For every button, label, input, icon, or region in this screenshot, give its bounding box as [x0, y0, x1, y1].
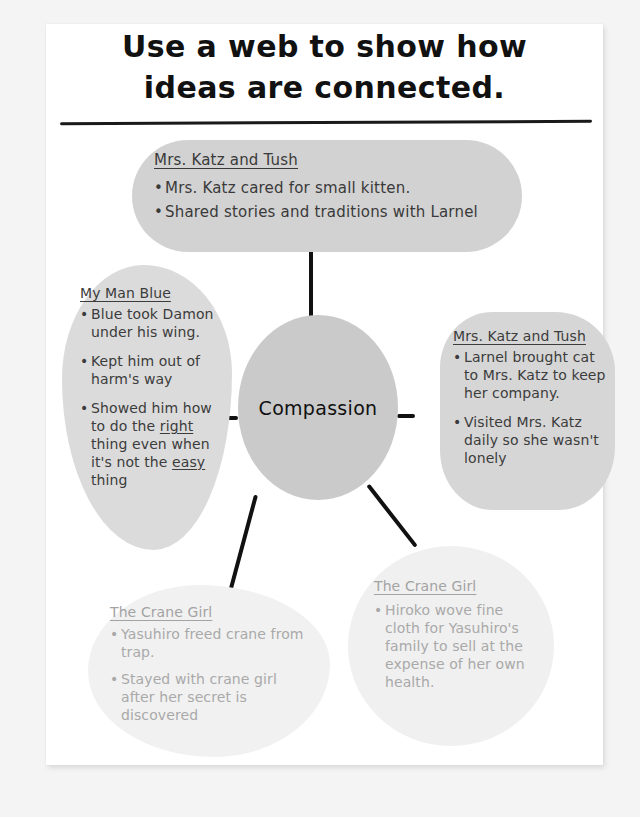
bubble-right-bullet-2: Visited Mrs. Katz daily so she wasn't lo… — [453, 413, 611, 467]
bubble-left-bullet-3-text-a: Showed him how to do the — [91, 400, 212, 434]
title-line-1: Use a web to show how — [46, 26, 603, 67]
bubble-bottom-left-content: The Crane Girl Yasuhiro freed crane from… — [110, 602, 315, 733]
bubble-right-bullet-list: Larnel brought cat to Mrs. Katz to keep … — [453, 348, 611, 467]
page-title: Use a web to show how ideas are connecte… — [46, 26, 603, 108]
bubble-left-bullet-3-text-c: thing — [91, 472, 128, 488]
bubble-bottom-right-bullet-list: Hiroko wove fine cloth for Yasuhiro's fa… — [374, 601, 538, 691]
bubble-top-bullet-2: Shared stories and traditions with Larne… — [154, 200, 512, 224]
center-node-compassion[interactable]: Compassion — [238, 315, 398, 500]
connector-center-to-right — [397, 414, 415, 418]
bubble-left-bullet-1: Blue took Damon under his wing. — [80, 305, 220, 341]
bubble-right-heading: Mrs. Katz and Tush — [453, 328, 586, 344]
bubble-left-bullet-3: Showed him how to do the right thing eve… — [80, 399, 220, 489]
bubble-bottom-right-bullet-1: Hiroko wove fine cloth for Yasuhiro's fa… — [374, 601, 538, 691]
bubble-bottom-left-heading: The Crane Girl — [110, 604, 212, 620]
bubble-left-bullet-list: Blue took Damon under his wing. Kept him… — [80, 305, 220, 489]
bubble-left-bullet-2: Kept him out of harm's way — [80, 352, 220, 388]
bubble-left-content: My Man Blue Blue took Damon under his wi… — [80, 283, 220, 500]
bubble-bottom-right-content: The Crane Girl Hiroko wove fine cloth fo… — [374, 576, 538, 691]
bubble-right-mrs-katz-and-tush[interactable]: Mrs. Katz and Tush Larnel brought cat to… — [440, 312, 615, 510]
worksheet-canvas: Use a web to show how ideas are connecte… — [0, 0, 640, 817]
bubble-left-emphasis-easy: easy — [172, 454, 205, 470]
bubble-bottom-left-bullet-1: Yasuhiro freed crane from trap. — [110, 625, 315, 661]
bubble-top-content: Mrs. Katz and Tush Mrs. Katz cared for s… — [154, 150, 512, 224]
bubble-top-mrs-katz-and-tush[interactable]: Mrs. Katz and Tush Mrs. Katz cared for s… — [132, 140, 522, 252]
bubble-bottom-right-heading: The Crane Girl — [374, 578, 476, 594]
center-node-label: Compassion — [259, 397, 378, 419]
bubble-bottom-left-bullet-2: Stayed with crane girl after her secret … — [110, 670, 315, 724]
connector-center-to-top — [309, 252, 313, 318]
bubble-top-bullet-1: Mrs. Katz cared for small kitten. — [154, 176, 512, 200]
title-line-2: ideas are connected. — [46, 67, 603, 108]
bubble-right-content: Mrs. Katz and Tush Larnel brought cat to… — [453, 326, 611, 478]
bubble-bottom-left-bullet-list: Yasuhiro freed crane from trap. Stayed w… — [110, 625, 315, 724]
bubble-left-heading: My Man Blue — [80, 285, 171, 301]
bubble-left-emphasis-right: right — [160, 418, 193, 434]
bubble-top-bullet-list: Mrs. Katz cared for small kitten. Shared… — [154, 176, 512, 224]
bubble-top-heading: Mrs. Katz and Tush — [154, 151, 298, 169]
bubble-bottom-left-the-crane-girl[interactable]: The Crane Girl Yasuhiro freed crane from… — [88, 585, 330, 757]
bubble-bottom-right-the-crane-girl[interactable]: The Crane Girl Hiroko wove fine cloth fo… — [348, 546, 554, 746]
bubble-right-bullet-1: Larnel brought cat to Mrs. Katz to keep … — [453, 348, 611, 402]
